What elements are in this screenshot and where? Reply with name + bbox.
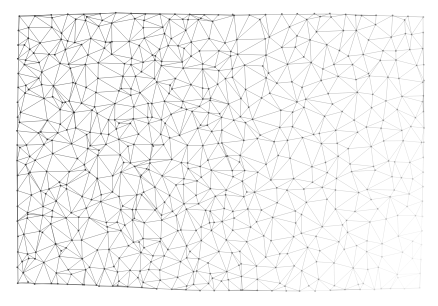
mesh-figure: Irregular Delaunay triangulation filling…	[0, 0, 438, 306]
triangulation-mesh-canvas	[0, 0, 438, 306]
